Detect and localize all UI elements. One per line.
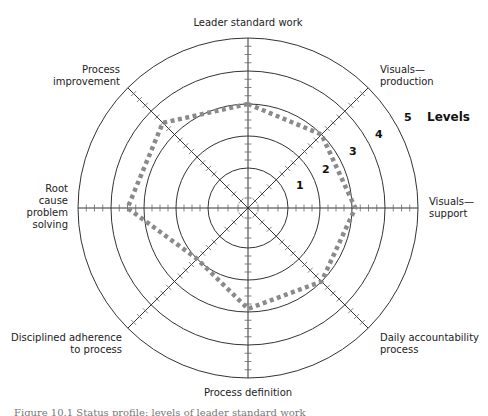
label-line: Visuals— (429, 196, 474, 208)
axis-label-disciplined-adherence: Disciplined adherence to process (4, 332, 122, 356)
label-line: support (429, 208, 474, 220)
level-number-5: 5 (404, 111, 412, 124)
level-number-2: 2 (322, 163, 330, 176)
axis-label-visuals-support: Visuals— support (429, 196, 474, 220)
level-number-4: 4 (375, 128, 383, 141)
label-line: Daily accountability (380, 332, 479, 344)
label-line: problem (10, 207, 68, 219)
axis-label-daily-accountability: Daily accountability process (380, 332, 479, 356)
label-line: solving (10, 219, 68, 231)
label-line: cause (10, 195, 68, 207)
levels-title: Levels (427, 110, 470, 124)
label-line: Root (10, 183, 68, 195)
axis-label-process-improvement: Process improvement (50, 64, 120, 88)
axis-label-visuals-production: Visuals— production (380, 64, 434, 88)
label-line: process (380, 344, 479, 356)
level-number-3: 3 (349, 145, 357, 158)
label-line: production (380, 76, 434, 88)
label-line: Process (50, 64, 120, 76)
label-line: Disciplined adherence (4, 332, 122, 344)
label-line: improvement (50, 76, 120, 88)
axis-label-process-definition: Process definition (188, 387, 308, 399)
label-line: Visuals— (380, 64, 434, 76)
level-number-1: 1 (296, 179, 304, 192)
label-line: to process (4, 344, 122, 356)
axis-label-root-cause-problem-solving: Root cause problem solving (10, 183, 68, 231)
figure-caption: Figure 10.1 Status profile: levels of le… (14, 407, 306, 416)
axis-label-leader-standard-work: Leader standard work (188, 17, 308, 29)
